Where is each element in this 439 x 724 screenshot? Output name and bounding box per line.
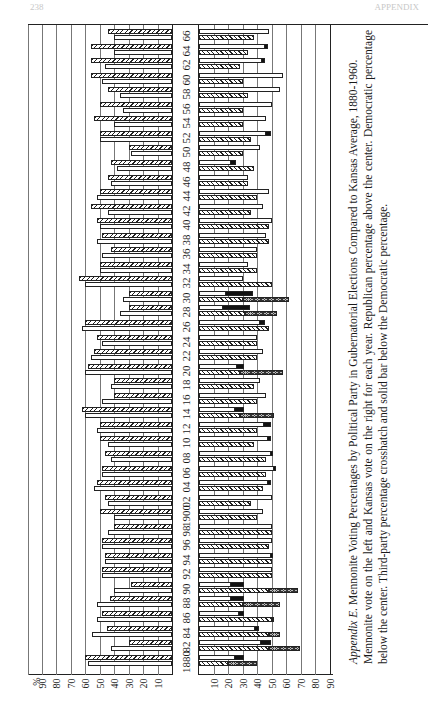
right-axis-tick: 20	[221, 678, 235, 689]
mennonite-democratic-bar	[91, 355, 172, 360]
right-axis-tick: 10	[207, 678, 221, 689]
kansas-republican-bar	[199, 544, 269, 549]
year-label: 92	[172, 567, 199, 581]
mennonite-democratic-bar	[100, 137, 173, 142]
year-label: 18	[172, 378, 199, 392]
mennonite-democratic-bar	[85, 370, 172, 375]
mennonite-republican-bar	[102, 466, 172, 471]
kansas-democratic-bar	[199, 466, 274, 471]
kansas-democratic-bar	[199, 116, 266, 121]
gridline-right	[301, 25, 302, 675]
mennonite-republican-bar	[79, 276, 172, 281]
kansas-republican-bar	[199, 268, 257, 273]
year-label: 14	[172, 407, 199, 421]
year-label: 16	[172, 393, 199, 407]
year-label-text: 94	[179, 554, 193, 565]
kansas-thirdparty-crosshatch-bar	[245, 311, 277, 316]
year-label-text: 22	[179, 351, 193, 362]
year-label-text: 46	[179, 176, 193, 187]
kansas-thirdparty-solid-bar	[234, 655, 245, 660]
kansas-republican-bar	[199, 311, 245, 316]
mennonite-republican-bar	[102, 611, 172, 616]
year-label: 04	[172, 480, 199, 494]
mennonite-democratic-bar	[92, 632, 172, 637]
year-label: 48	[172, 160, 199, 174]
year-label: 50	[172, 145, 199, 159]
mennonite-democratic-bar	[94, 486, 172, 491]
kansas-thirdparty-solid-bar	[267, 480, 271, 485]
year-label-text: 28	[179, 307, 193, 318]
kansas-democratic-bar	[199, 276, 243, 281]
left-axis-tick: 80	[49, 678, 63, 689]
mennonite-republican-bar	[91, 204, 172, 209]
kansas-republican-bar	[199, 210, 251, 215]
kansas-thirdparty-crosshatch-bar	[228, 661, 257, 666]
mennonite-republican-bar	[94, 349, 172, 354]
year-label-text: 82	[179, 642, 193, 653]
kansas-thirdparty-solid-bar	[273, 466, 277, 471]
kansas-thirdparty-crosshatch-bar	[240, 370, 284, 375]
kansas-democratic-bar	[199, 335, 257, 340]
mennonite-democratic-bar	[120, 93, 172, 98]
kansas-republican-bar	[199, 195, 257, 200]
mennonite-democratic-bar	[97, 428, 172, 433]
mennonite-republican-bar	[82, 407, 172, 412]
mennonite-democratic-bar	[108, 530, 172, 535]
mennonite-democratic-bar	[114, 515, 172, 520]
mennonite-republican-bar	[100, 189, 173, 194]
year-label: 58	[172, 87, 199, 101]
mennonite-republican-bar	[91, 44, 172, 49]
year-label: 32	[172, 276, 199, 290]
year-label: 42	[172, 204, 199, 218]
kansas-democratic-bar	[199, 160, 234, 165]
kansas-democratic-bar	[199, 378, 260, 383]
mennonite-democratic-bar	[114, 122, 172, 127]
kansas-democratic-bar	[199, 349, 263, 354]
kansas-republican-bar	[199, 370, 240, 375]
year-label-text: 86	[179, 613, 193, 624]
gridline-left	[85, 25, 86, 675]
gridline-left	[71, 25, 72, 675]
kansas-republican-bar	[199, 282, 272, 287]
gridline-far-left	[28, 25, 29, 675]
mennonite-republican-bar	[108, 175, 172, 180]
kansas-democratic-bar	[199, 626, 257, 631]
kansas-democratic-bar	[199, 102, 272, 107]
year-label: 26	[172, 320, 199, 334]
right-axis-tick: 70	[294, 678, 308, 689]
kansas-thirdparty-solid-bar	[225, 291, 253, 296]
kansas-thirdparty-solid-bar	[267, 436, 271, 441]
year-label-text: 66	[179, 31, 193, 42]
year-label: 30	[172, 291, 199, 305]
year-label: 1880	[172, 655, 199, 669]
mennonite-democratic-bar	[100, 268, 173, 273]
kansas-thirdparty-solid-bar	[230, 160, 235, 165]
mennonite-democratic-bar	[108, 501, 172, 506]
year-label: 10	[172, 436, 199, 450]
year-label: 86	[172, 611, 199, 625]
year-label: 56	[172, 102, 199, 116]
caption-title: Mennonite Voting Percentages by Politica…	[347, 60, 359, 605]
kansas-thirdparty-solid-bar	[263, 422, 270, 427]
kansas-republican-bar	[199, 151, 243, 156]
year-label: 22	[172, 349, 199, 363]
kansas-democratic-bar	[199, 73, 283, 78]
kansas-democratic-bar	[199, 204, 263, 209]
mennonite-democratic-bar	[105, 64, 172, 69]
year-label-text: 18	[179, 380, 193, 391]
kansas-democratic-bar	[199, 58, 263, 63]
mennonite-republican-bar	[129, 305, 173, 310]
mennonite-democratic-bar	[102, 399, 172, 404]
kansas-republican-bar	[199, 93, 248, 98]
kansas-democratic-bar	[199, 495, 272, 500]
figure-caption: Appendix E. Mennonite Voting Percentages…	[340, 26, 435, 674]
mennonite-republican-bar	[85, 655, 172, 660]
kansas-republican-bar	[199, 224, 269, 229]
kansas-democratic-bar	[199, 480, 269, 485]
kansas-democratic-bar	[199, 29, 269, 34]
mennonite-republican-bar	[107, 626, 172, 631]
year-label-text: 62	[179, 60, 193, 71]
mennonite-democratic-bar	[111, 457, 172, 462]
year-label-text: 40	[179, 220, 193, 231]
kansas-republican-bar	[199, 297, 243, 302]
